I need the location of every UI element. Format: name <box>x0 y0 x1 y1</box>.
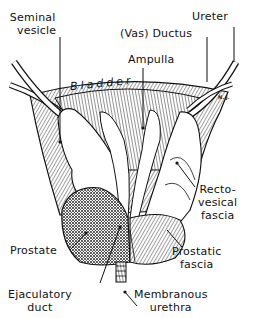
label-rectovesical-fascia: Recto- vesical fascia <box>198 183 237 222</box>
artist-signature: N. J. <box>218 94 230 100</box>
label-ejaculatory-duct: Ejaculatory duct <box>8 288 72 314</box>
label-seminal-vesicle: Seminal vesicle <box>9 12 56 36</box>
label-ampulla: Ampulla <box>128 54 174 65</box>
label-vas-ductus: (Vas) Ductus <box>120 28 192 39</box>
label-ureter: Ureter <box>192 11 228 22</box>
label-prostatic-fascia: Prostatic fascia <box>172 245 221 271</box>
label-prostate: Prostate <box>10 245 57 256</box>
label-membranous-urethra: Membranous urethra <box>134 288 208 314</box>
